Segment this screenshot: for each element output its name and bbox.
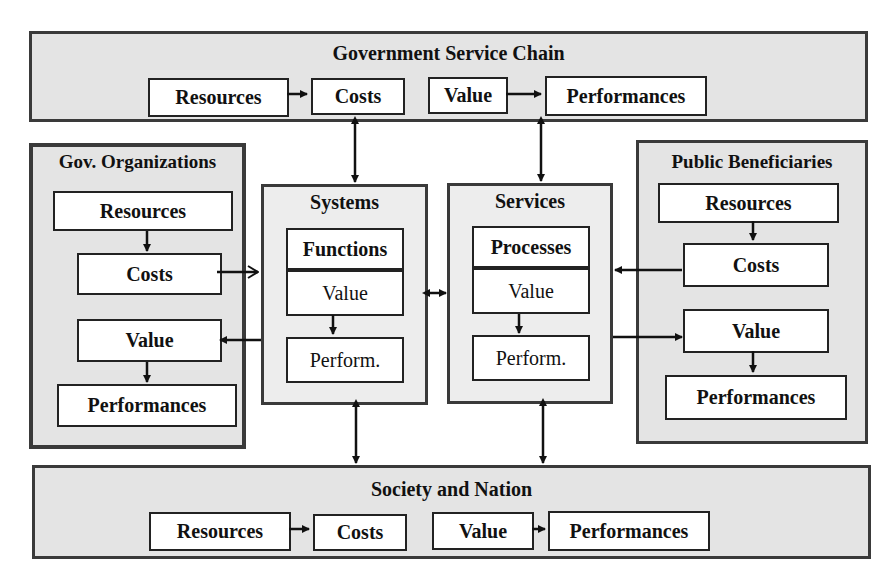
services-processes-box: Processes bbox=[472, 226, 590, 270]
gsc-performances-box: Performances bbox=[545, 76, 707, 116]
services-value-box: Value bbox=[472, 268, 590, 314]
gov-org-performances-box: Performances bbox=[57, 384, 237, 427]
pb-resources-box: Resources bbox=[658, 183, 839, 223]
public-beneficiaries-title: Public Beneficiaries bbox=[639, 151, 865, 173]
services-perform-box: Perform. bbox=[472, 335, 590, 381]
systems-perform-box: Perform. bbox=[286, 337, 404, 383]
gov-org-resources-box: Resources bbox=[53, 191, 233, 231]
society-and-nation-panel: Society and Nation Resources Costs Value… bbox=[32, 465, 871, 559]
gsc-costs-box: Costs bbox=[311, 78, 405, 115]
gov-organizations-title: Gov. Organizations bbox=[33, 151, 242, 173]
public-beneficiaries-panel: Public Beneficiaries Resources Costs Val… bbox=[636, 140, 868, 444]
pb-performances-box: Performances bbox=[665, 375, 847, 420]
society-and-nation-title: Society and Nation bbox=[35, 478, 868, 501]
gov-org-costs-box: Costs bbox=[77, 253, 222, 295]
gov-org-value-box: Value bbox=[77, 319, 222, 362]
government-service-chain-title: Government Service Chain bbox=[32, 42, 865, 65]
gsc-resources-box: Resources bbox=[148, 78, 289, 117]
pb-value-box: Value bbox=[683, 309, 829, 353]
government-service-chain-panel: Government Service Chain Resources Costs… bbox=[29, 31, 868, 122]
gsc-value-box: Value bbox=[428, 77, 508, 114]
gov-organizations-panel: Gov. Organizations Resources Costs Value… bbox=[29, 143, 246, 449]
sn-costs-box: Costs bbox=[313, 514, 407, 551]
sn-resources-box: Resources bbox=[149, 512, 291, 551]
services-panel: Services Processes Value Perform. bbox=[447, 183, 613, 404]
sn-performances-box: Performances bbox=[548, 511, 710, 551]
systems-panel: Systems Functions Value Perform. bbox=[261, 184, 428, 405]
systems-title: Systems bbox=[264, 191, 425, 214]
pb-costs-box: Costs bbox=[683, 243, 829, 287]
systems-value-box: Value bbox=[286, 270, 404, 316]
sn-value-box: Value bbox=[432, 512, 534, 550]
systems-functions-box: Functions bbox=[286, 228, 404, 272]
services-title: Services bbox=[450, 190, 610, 213]
